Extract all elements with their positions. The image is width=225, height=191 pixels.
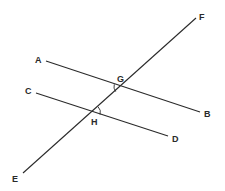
- point-label-a: A: [35, 55, 42, 65]
- angle-arc-g: [114, 84, 116, 91]
- point-label-d: D: [172, 134, 179, 144]
- point-label-g: G: [117, 74, 124, 84]
- point-label-e: E: [12, 174, 18, 184]
- point-label-f: F: [199, 12, 205, 22]
- geometry-diagram: A B C D E F G H: [0, 0, 225, 191]
- point-label-h: H: [91, 117, 98, 127]
- point-label-b: B: [204, 109, 211, 119]
- line-cd: [36, 93, 168, 136]
- point-label-c: C: [25, 86, 32, 96]
- line-ef-transversal: [23, 18, 196, 173]
